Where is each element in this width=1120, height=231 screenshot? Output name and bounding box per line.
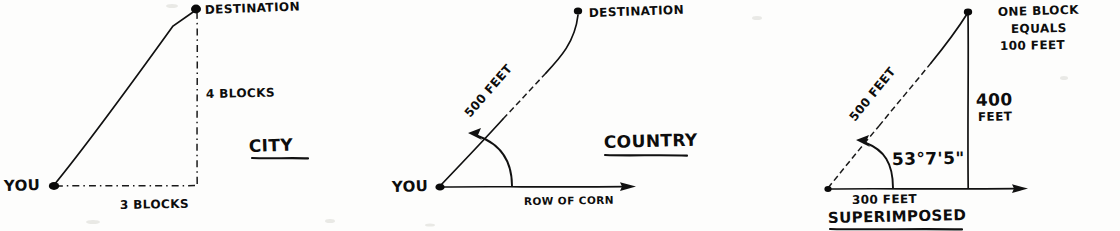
country-caption: COUNTRY [604,130,699,152]
super-vertical-leg-label-line1: 400 [976,89,1013,110]
panel-city: YOU DESTINATION 4 BLOCKS 3 BLOCKS CITY [3,0,308,212]
country-baseline-arrowhead [620,182,636,191]
city-origin-dot [49,182,59,190]
country-angle-arc [478,136,512,186]
city-caption: CITY [248,135,293,156]
super-apex-dot [964,9,972,16]
trigonometry-diagram-svg: YOU DESTINATION 4 BLOCKS 3 BLOCKS CITY [0,0,1120,231]
country-origin-label: YOU [391,177,429,196]
super-origin-dot [824,186,831,192]
super-vertical-leg-label-line2: FEET [978,109,1013,124]
scale-note-line1: ONE BLOCK [998,3,1080,19]
super-angle-label: 53°7'5" [892,148,965,169]
super-hypotenuse-lower [828,126,879,188]
city-horizontal-leg-label: 3 BLOCKS [120,197,189,212]
super-hypotenuse-label: 500 FEET [846,64,898,124]
country-angle-arc-arrowhead [468,128,482,140]
scale-note-line3: 100 FEET [1000,38,1066,53]
super-hypotenuse-upper [931,14,967,63]
city-origin-label: YOU [3,176,41,195]
city-vertical-leg-label: 4 BLOCKS [206,86,275,101]
city-apex-dot [191,5,201,14]
country-apex-dot [574,7,582,14]
super-angle-arc [866,143,893,188]
country-apex-label: DESTINATION [589,3,685,20]
country-hypotenuse-mid [503,73,546,119]
country-hypotenuse-label: 500 FEET [462,61,516,120]
super-angle-arc-arrowhead [856,135,870,147]
figure-root: YOU DESTINATION 4 BLOCKS 3 BLOCKS CITY [0,0,1120,231]
super-horizontal-leg-label: 300 FEET [852,192,918,207]
scale-note-line2: EQUALS [1011,21,1067,36]
city-hypotenuse [54,10,196,185]
country-baseline-label: ROW OF CORN [524,194,614,207]
country-hypotenuse-upper [546,15,578,73]
country-origin-dot [435,183,444,190]
country-caption-underline [605,155,687,156]
super-caption: SUPERIMPOSED [828,206,967,227]
paper-specks [86,4,1068,227]
country-hypotenuse-lower [440,119,503,186]
panel-country: YOU DESTINATION 500 FEET ROW OF CORN COU… [391,3,699,207]
super-baseline-arrowhead [1012,184,1028,193]
city-apex-label: DESTINATION [205,0,301,17]
panel-superimposed: 500 FEET 53°7'5" 400 FEET 300 FEET SUPER… [824,3,1079,230]
